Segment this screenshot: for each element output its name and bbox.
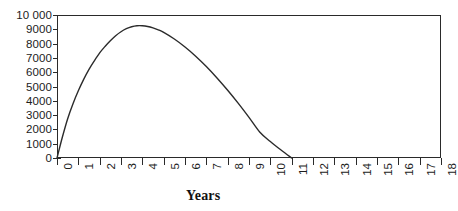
curve-layer [0,0,458,211]
data-line-series [57,26,292,158]
x-axis-title: Years [186,188,220,204]
chart-figure: 010002000300040005000600070008000900010 … [0,0,458,211]
